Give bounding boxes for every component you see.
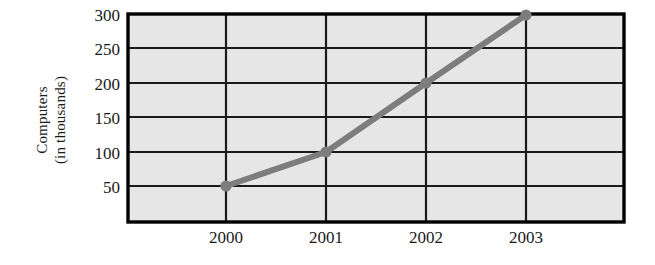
y-tick-label-100: 100 <box>95 144 121 163</box>
data-point-2003 <box>520 9 531 20</box>
y-axis-label-line1: Computers <box>34 86 50 154</box>
chart-figure: 300 250 200 150 100 50 2000 2001 2002 20… <box>0 0 655 265</box>
x-tick-label-2003: 2003 <box>509 228 543 247</box>
y-tick-label-300: 300 <box>95 6 121 25</box>
x-tick-label-2002: 2002 <box>409 228 443 247</box>
y-axis-tick-labels: 300 250 200 150 100 50 <box>95 6 121 197</box>
line-chart: 300 250 200 150 100 50 2000 2001 2002 20… <box>0 0 655 265</box>
data-point-2001 <box>320 146 331 157</box>
y-tick-label-250: 250 <box>95 40 121 59</box>
data-point-2000 <box>220 180 231 191</box>
x-tick-label-2001: 2001 <box>309 228 343 247</box>
y-axis-label: Computers (in thousands) <box>34 76 69 164</box>
y-tick-label-50: 50 <box>103 178 120 197</box>
y-tick-label-150: 150 <box>95 109 121 128</box>
y-tick-label-200: 200 <box>95 75 121 94</box>
x-axis-tick-labels: 2000 2001 2002 2003 <box>209 228 543 247</box>
data-point-2002 <box>420 77 431 88</box>
y-axis-label-line2: (in thousands) <box>52 76 69 164</box>
x-tick-label-2000: 2000 <box>209 228 243 247</box>
